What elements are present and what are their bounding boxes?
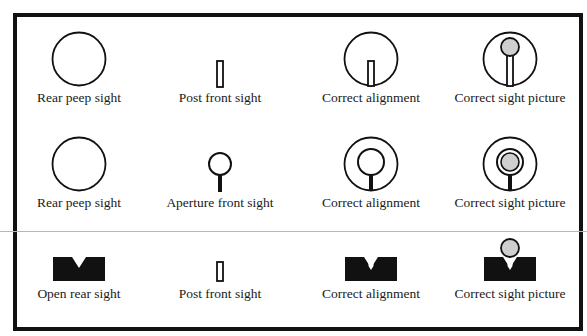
label: Correct sight picture — [437, 195, 583, 211]
cell-correct-sight-picture-1: Correct sight picture — [437, 31, 583, 106]
cell-correct-alignment-1: Correct alignment — [298, 31, 444, 106]
label: Post front sight — [147, 286, 293, 302]
target-bullseye-icon — [501, 153, 519, 171]
open-post-alignment-icon — [343, 249, 399, 283]
aperture-front-sight-icon — [192, 136, 248, 192]
label: Correct alignment — [298, 195, 444, 211]
cell-post-front-sight-2: Post front sight — [147, 249, 293, 302]
label: Post front sight — [147, 90, 293, 106]
label: Correct alignment — [298, 286, 444, 302]
post-front-sight-icon — [192, 249, 248, 283]
cell-aperture-front-sight: Aperture front sight — [147, 136, 293, 211]
post-front-sight-icon — [192, 31, 248, 87]
label: Open rear sight — [6, 286, 152, 302]
target-bullseye-icon — [501, 38, 519, 56]
cell-correct-sight-picture-3: Correct sight picture — [437, 234, 583, 302]
peep-aperture-alignment-icon — [343, 136, 399, 192]
cell-correct-alignment-2: Correct alignment — [298, 136, 444, 211]
rear-peep-sight-icon — [51, 136, 107, 192]
target-bullseye-icon — [501, 239, 519, 257]
cell-rear-peep-sight-1: Rear peep sight — [6, 31, 152, 106]
cell-correct-alignment-3: Correct alignment — [298, 249, 444, 302]
open-rear-sight-icon — [51, 249, 107, 283]
open-post-sight-picture-icon — [482, 234, 538, 283]
page-fold-divider — [0, 231, 587, 232]
label: Rear peep sight — [6, 195, 152, 211]
peep-aperture-sight-picture-icon — [482, 136, 538, 192]
cell-rear-peep-sight-2: Rear peep sight — [6, 136, 152, 211]
cell-correct-sight-picture-2: Correct sight picture — [437, 136, 583, 211]
label: Rear peep sight — [6, 90, 152, 106]
label: Correct sight picture — [437, 90, 583, 106]
label: Aperture front sight — [147, 195, 293, 211]
cell-post-front-sight-1: Post front sight — [147, 31, 293, 106]
rear-peep-sight-icon — [51, 31, 107, 87]
label: Correct sight picture — [437, 286, 583, 302]
label: Correct alignment — [298, 90, 444, 106]
peep-post-alignment-icon — [343, 31, 399, 87]
peep-post-sight-picture-icon — [482, 31, 538, 87]
cell-open-rear-sight: Open rear sight — [6, 249, 152, 302]
